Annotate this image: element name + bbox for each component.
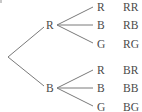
edge-B-to-G: [57, 88, 93, 106]
edge-B-to-R: [57, 70, 93, 88]
outcome-RR: RR: [123, 1, 139, 13]
edge-R-to-R: [57, 7, 93, 25]
node-B-B: B: [97, 82, 105, 94]
edge-root-to-R: [8, 27, 44, 57]
outcome-RG: RG: [123, 38, 139, 50]
node-R-R: R: [97, 1, 105, 13]
edge-root-to-B: [8, 57, 44, 86]
node-R-B: B: [97, 19, 105, 31]
outcome-BR: BR: [123, 64, 139, 76]
node-first-R: R: [46, 19, 54, 31]
outcome-RB: RB: [123, 19, 139, 31]
edge-R-to-G: [57, 25, 93, 43]
node-R-G: G: [97, 38, 105, 50]
node-B-R: R: [97, 64, 105, 76]
outcome-BB: BB: [123, 82, 139, 94]
node-B-G: G: [97, 101, 105, 112]
tree-diagram: R B R B G R B G RR RB RG BR BB BG: [0, 0, 142, 112]
outcome-BG: BG: [123, 101, 139, 112]
node-first-B: B: [46, 82, 54, 94]
